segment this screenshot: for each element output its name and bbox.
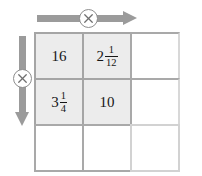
cell-r2c1-fraction: 1 4 (60, 90, 67, 113)
cell-r2c2-value: 10 (100, 95, 115, 110)
cell-r1c3[interactable] (130, 32, 180, 80)
cell-r3c1[interactable] (34, 124, 84, 172)
multiply-circle-icon-column (13, 69, 32, 88)
diagram-canvas: 16 2 1 12 3 1 4 10 (0, 0, 202, 176)
cell-r1c2[interactable]: 2 1 12 (82, 32, 132, 80)
number-grid: 16 2 1 12 3 1 4 10 (35, 33, 179, 171)
cell-r2c1-numerator: 1 (60, 90, 67, 101)
cell-r1c1-value: 16 (52, 49, 67, 64)
cell-r1c2-whole: 2 (97, 49, 105, 64)
cell-r2c3[interactable] (130, 78, 180, 126)
cell-r2c1-denominator: 4 (60, 102, 67, 114)
cell-r1c2-value: 2 1 12 (97, 44, 118, 67)
cell-r1c2-fraction: 1 12 (105, 44, 118, 67)
cell-r2c1-whole: 3 (51, 95, 59, 110)
cell-r1c2-denominator: 12 (105, 56, 118, 68)
column-arrow-head-icon (15, 112, 29, 126)
cell-r2c1-value: 3 1 4 (51, 90, 67, 113)
cell-r1c2-numerator: 1 (108, 44, 115, 55)
cell-r3c3[interactable] (130, 124, 180, 172)
multiply-circle-icon-row (79, 9, 98, 28)
cell-r3c2[interactable] (82, 124, 132, 172)
row-arrow-head-icon (123, 11, 137, 25)
cell-r2c1[interactable]: 3 1 4 (34, 78, 84, 126)
cell-r1c1[interactable]: 16 (34, 32, 84, 80)
cell-r2c2[interactable]: 10 (82, 78, 132, 126)
